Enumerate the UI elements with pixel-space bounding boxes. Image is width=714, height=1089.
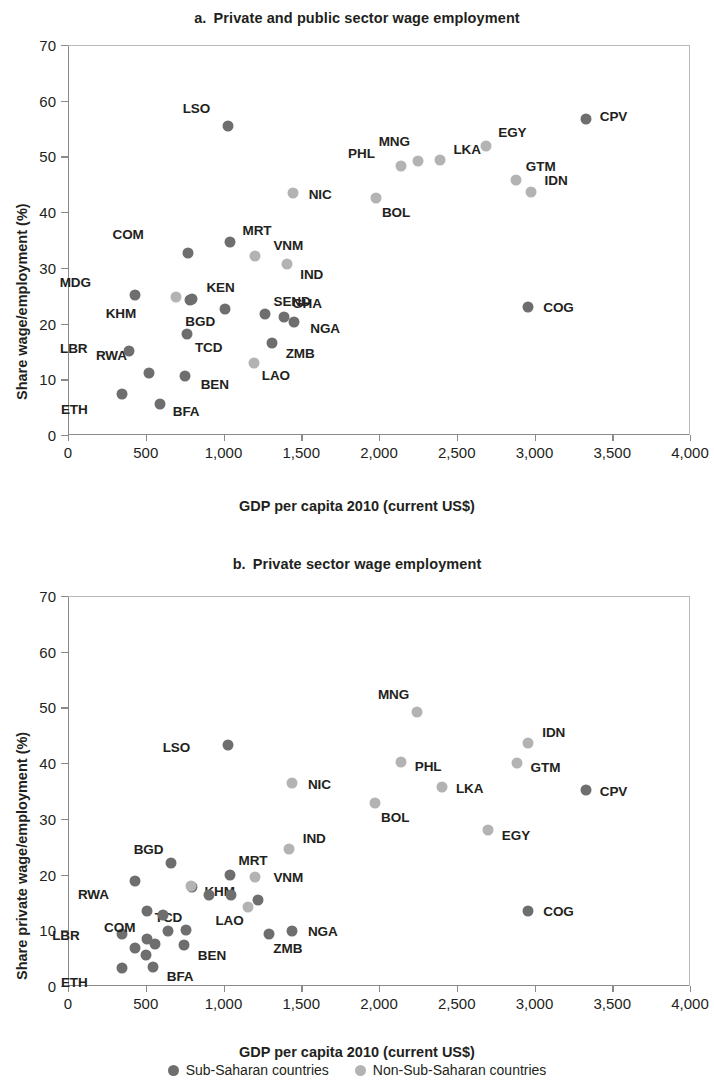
x-tick-label: 500 [133,995,158,1012]
y-tick-mark [61,707,68,708]
scatter-point-label: MRT [238,853,267,868]
scatter-point-label: CPV [600,109,627,124]
scatter-point [203,890,214,901]
y-tick-label: 70 [39,588,56,605]
x-tick-mark [379,986,380,992]
scatter-point [412,155,423,166]
scatter-point [370,797,381,808]
scatter-point [166,858,177,869]
scatter-point-label: LKA [456,781,483,796]
scatter-point-label: BFA [173,404,200,419]
x-tick-label: 4,000 [671,444,709,461]
x-tick-label: 2,000 [360,444,398,461]
x-tick-label: 2,500 [438,995,476,1012]
scatter-point [523,738,534,749]
scatter-point [116,389,127,400]
x-tick-mark [379,435,380,441]
scatter-point [266,337,277,348]
figure-legend: Sub-Saharan countriesNon-Sub-Saharan cou… [0,1062,714,1078]
y-tick-label: 50 [39,699,56,716]
scatter-point-label: IDN [545,173,568,188]
panel-a-top-spine [68,45,690,46]
scatter-point-label: GTM [531,760,561,775]
scatter-point [129,943,140,954]
scatter-point [187,293,198,304]
y-tick-label: 40 [39,204,56,221]
x-tick-mark [612,435,613,441]
panel-b-letter: b. [233,556,246,572]
scatter-point [129,876,140,887]
scatter-point [436,782,447,793]
scatter-point-label: IND [300,267,323,282]
scatter-point [510,174,521,185]
scatter-point [250,250,261,261]
y-tick-label: 20 [39,315,56,332]
y-tick-mark [61,596,68,597]
scatter-point-label: EGY [498,125,526,140]
y-tick-label: 40 [39,755,56,772]
scatter-point [179,370,190,381]
scatter-point [248,357,259,368]
panel-b-right-spine [689,596,690,986]
scatter-point-label: LKA [453,142,480,157]
scatter-point [181,328,192,339]
panel-a-plot-area: 01020304050607005001,0001,5002,0002,5003… [68,45,690,435]
scatter-point [129,289,140,300]
x-tick-mark [690,435,691,441]
scatter-point-label: BGD [134,842,164,857]
y-tick-label: 30 [39,259,56,276]
panel-a-title: a.Private and public sector wage employm… [0,10,714,26]
y-tick-label: 30 [39,810,56,827]
panel-a-y-axis [68,45,69,435]
x-tick-mark [690,986,691,992]
scatter-point [140,949,151,960]
scatter-point-label: ZMB [273,941,302,956]
y-tick-mark [61,101,68,102]
scatter-point [226,889,237,900]
y-tick-mark [61,45,68,46]
y-tick-label: 0 [48,978,56,995]
x-tick-mark [224,986,225,992]
panel-a-x-axis-title: GDP per capita 2010 (current US$) [0,498,714,514]
x-tick-mark [146,435,147,441]
x-tick-mark [535,435,536,441]
scatter-point-label: TCD [195,340,222,355]
y-tick-mark [61,156,68,157]
scatter-point-label: LAO [215,913,243,928]
scatter-point [481,141,492,152]
scatter-point-label: VNM [273,870,303,885]
scatter-point-label: ETH [61,402,88,417]
x-tick-label: 2,000 [360,995,398,1012]
x-tick-label: 500 [133,444,158,461]
panel-b-y-axis-title: Share private wage/employment (%) [14,732,30,980]
scatter-point [580,784,591,795]
panel-a: a.Private and public sector wage employm… [0,0,714,530]
x-tick-label: 3,500 [593,995,631,1012]
scatter-point-label: ETH [61,975,88,990]
scatter-point-label: MNG [378,687,409,702]
scatter-point [223,121,234,132]
x-tick-mark [612,986,613,992]
scatter-point [116,962,127,973]
scatter-point-label: NGA [310,321,340,336]
scatter-point-label: BEN [201,377,229,392]
x-tick-label: 2,500 [438,444,476,461]
x-tick-mark [224,435,225,441]
scatter-point-label: RWA [78,887,109,902]
legend-label: Sub-Saharan countries [186,1062,329,1078]
scatter-point [482,825,493,836]
scatter-point-label: LSO [183,101,210,116]
scatter-point [185,881,196,892]
scatter-point [282,258,293,269]
x-tick-label: 1,500 [282,995,320,1012]
panel-a-right-spine [689,45,690,435]
scatter-point-label: LSO [163,740,190,755]
scatter-point-label: KHM [106,306,136,321]
scatter-point-label: COG [543,300,573,315]
y-tick-label: 0 [48,427,56,444]
scatter-point [264,929,275,940]
scatter-point [250,872,261,883]
y-tick-label: 20 [39,866,56,883]
y-tick-mark [61,324,68,325]
y-tick-label: 70 [39,37,56,54]
